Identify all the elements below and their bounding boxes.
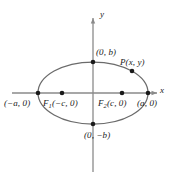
x-axis (12, 91, 157, 95)
point-right-vertex (146, 91, 151, 96)
point-focus-2 (120, 91, 125, 96)
y-axis-label: y (100, 10, 104, 19)
x-axis-label: x (160, 86, 164, 95)
label-bottom-vertex: (0, −b) (84, 131, 110, 140)
label-focus-2: F2(c, 0) (98, 99, 127, 110)
label-point-p: P(x, y) (120, 58, 145, 67)
label-right-vertex: (a, 0) (137, 99, 157, 108)
point-bottom-vertex (91, 122, 96, 127)
point-top-vertex (91, 60, 96, 65)
focus-1-coords: (−c, 0) (52, 98, 78, 108)
y-axis (91, 18, 95, 172)
label-top-vertex: (0, b) (96, 48, 116, 57)
ellipse-figure: y x (0, b) (0, −b) (−a, 0) (a, 0) F1(−c,… (0, 0, 173, 175)
point-focus-1 (60, 91, 65, 96)
focus-2-coords: (c, 0) (107, 98, 127, 108)
label-focus-1: F1(−c, 0) (43, 99, 78, 110)
label-left-vertex: (−a, 0) (4, 99, 30, 108)
point-p (130, 69, 135, 74)
point-left-vertex (36, 91, 41, 96)
figure-canvas (0, 0, 173, 175)
